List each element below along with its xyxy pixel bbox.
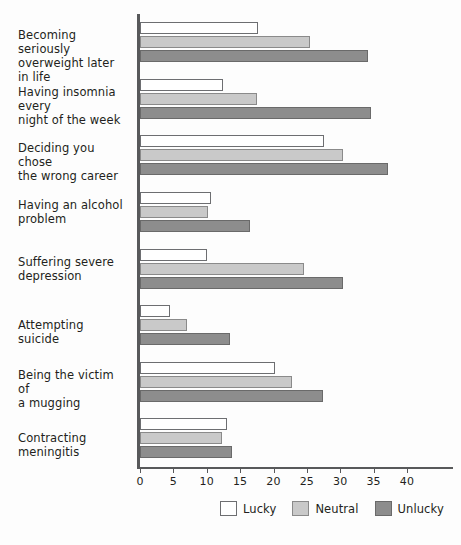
x-tick-label: 40	[400, 475, 414, 488]
x-tick	[340, 467, 341, 473]
plot-area: 0510152025303540	[140, 14, 458, 467]
category-label-line: Having an alcohol	[18, 198, 124, 212]
bar-group	[140, 305, 458, 347]
category-label: Being the victim ofa mugging	[0, 368, 124, 410]
legend-item-lucky[interactable]: Lucky	[220, 501, 276, 516]
unlucky-swatch	[375, 501, 392, 516]
x-tick	[140, 467, 141, 473]
bar-group	[140, 22, 458, 64]
bar-neutral	[140, 376, 292, 388]
legend-label: Neutral	[315, 502, 358, 516]
x-tick-label: 0	[136, 475, 143, 488]
bar-groups	[140, 14, 458, 467]
bar-chart: Becoming seriouslyoverweight later in li…	[0, 0, 461, 545]
category-label-line: Deciding you chose	[18, 141, 124, 169]
bar-neutral	[140, 206, 208, 218]
bar-neutral	[140, 93, 257, 105]
category-label: Deciding you chosethe wrong career	[0, 141, 124, 183]
bar-unlucky	[140, 50, 368, 62]
chart-legend: LuckyNeutralUnlucky	[220, 501, 444, 516]
bar-lucky	[140, 135, 324, 147]
category-label-line: overweight later in life	[18, 56, 124, 84]
bar-unlucky	[140, 107, 371, 119]
legend-label: Lucky	[243, 502, 276, 516]
bar-group	[140, 418, 458, 460]
bar-lucky	[140, 249, 207, 261]
bar-lucky	[140, 362, 275, 374]
bar-unlucky	[140, 220, 250, 232]
bar-unlucky	[140, 333, 230, 345]
category-label-line: Attempting suicide	[18, 318, 124, 346]
x-tick-label: 25	[300, 475, 314, 488]
x-tick-label: 10	[200, 475, 214, 488]
category-label: Having an alcoholproblem	[0, 198, 124, 226]
bar-unlucky	[140, 277, 343, 289]
bar-group	[140, 79, 458, 121]
legend-label: Unlucky	[398, 502, 444, 516]
lucky-swatch	[220, 501, 237, 516]
category-label-line: depression	[18, 269, 124, 283]
bar-group	[140, 192, 458, 234]
x-tick	[274, 467, 275, 473]
bar-lucky	[140, 192, 211, 204]
category-label: Becoming seriouslyoverweight later in li…	[0, 28, 124, 84]
category-label: Suffering severedepression	[0, 255, 124, 283]
x-tick	[240, 467, 241, 473]
x-tick-label: 15	[233, 475, 247, 488]
category-label-line: Becoming seriously	[18, 28, 124, 56]
category-label-line: Having insomnia every	[18, 85, 124, 113]
x-tick-label: 5	[170, 475, 177, 488]
legend-item-unlucky[interactable]: Unlucky	[375, 501, 444, 516]
bar-neutral	[140, 149, 343, 161]
x-axis-ticks: 0510152025303540	[140, 467, 458, 497]
bar-unlucky	[140, 163, 388, 175]
bar-neutral	[140, 263, 304, 275]
x-tick	[374, 467, 375, 473]
category-label: Having insomnia everynight of the week	[0, 85, 124, 127]
bar-lucky	[140, 22, 258, 34]
category-label-line: the wrong career	[18, 169, 124, 183]
x-tick	[407, 467, 408, 473]
bar-group	[140, 135, 458, 177]
bar-unlucky	[140, 446, 232, 458]
bar-group	[140, 249, 458, 291]
bar-lucky	[140, 418, 227, 430]
x-tick	[307, 467, 308, 473]
x-tick	[207, 467, 208, 473]
category-label: Contracting meningitis	[0, 431, 124, 459]
bar-lucky	[140, 305, 170, 317]
x-tick-label: 35	[366, 475, 380, 488]
x-tick	[173, 467, 174, 473]
legend-item-neutral[interactable]: Neutral	[292, 501, 358, 516]
bar-lucky	[140, 79, 223, 91]
x-tick-label: 20	[266, 475, 280, 488]
category-label-line: night of the week	[18, 113, 124, 127]
category-label-line: Suffering severe	[18, 255, 124, 269]
x-tick-label: 30	[333, 475, 347, 488]
category-label-line: problem	[18, 212, 124, 226]
category-label-line: a mugging	[18, 396, 124, 410]
category-label-line: Being the victim of	[18, 368, 124, 396]
bar-neutral	[140, 432, 222, 444]
bar-neutral	[140, 36, 310, 48]
category-axis-labels: Becoming seriouslyoverweight later in li…	[0, 14, 132, 467]
bar-unlucky	[140, 390, 323, 402]
category-label: Attempting suicide	[0, 318, 124, 346]
neutral-swatch	[292, 501, 309, 516]
bar-neutral	[140, 319, 187, 331]
bar-group	[140, 362, 458, 404]
category-label-line: Contracting meningitis	[18, 431, 124, 459]
